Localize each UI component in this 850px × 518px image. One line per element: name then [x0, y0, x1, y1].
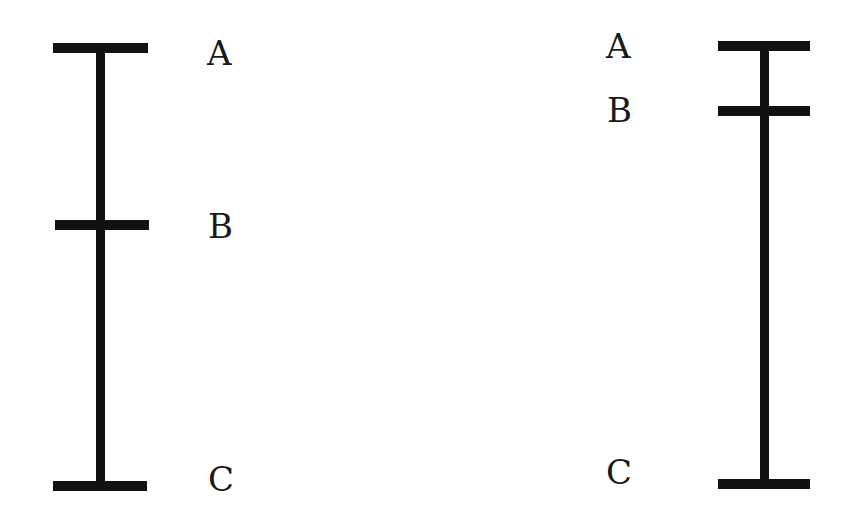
- point-label-a: A: [606, 29, 631, 63]
- point-label-b: B: [208, 209, 233, 243]
- tick-a: [718, 41, 810, 51]
- tick-a: [53, 43, 148, 53]
- tick-c: [53, 481, 147, 491]
- point-label-b: B: [607, 93, 632, 127]
- tick-b: [718, 106, 810, 116]
- tick-c: [718, 479, 810, 489]
- point-label-a: A: [207, 36, 232, 70]
- point-label-c: C: [606, 455, 632, 489]
- point-label-c: C: [208, 462, 234, 496]
- vertical-line: [96, 44, 105, 490]
- tick-b: [55, 220, 149, 230]
